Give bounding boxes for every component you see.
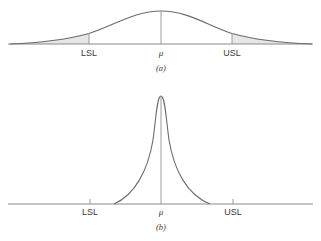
usl-label-b: USL <box>224 207 242 217</box>
panel-a: LSL μ USL (a) <box>8 11 313 73</box>
process-capability-diagram: LSL μ USL (a) LSL μ USL (b) <box>0 0 321 241</box>
mean-label-b: μ <box>158 207 164 217</box>
upper-tail-shade <box>232 34 312 45</box>
caption-b: (b) <box>156 222 166 232</box>
caption-a: (a) <box>156 63 166 73</box>
lsl-label-b: LSL <box>82 207 98 217</box>
lsl-label-a: LSL <box>81 48 97 58</box>
mean-label-a: μ <box>158 48 164 58</box>
panel-b: LSL μ USL (b) <box>8 96 313 232</box>
lower-tail-shade <box>10 34 89 45</box>
normal-curve-b <box>114 96 210 204</box>
usl-label-a: USL <box>223 48 241 58</box>
